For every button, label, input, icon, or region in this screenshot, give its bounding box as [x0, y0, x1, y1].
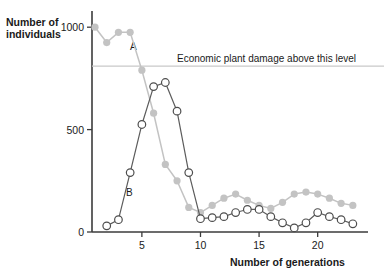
line-chart-svg: Number of individuals Number of generati… — [0, 0, 385, 276]
series-a-point — [138, 67, 145, 74]
economic-threshold-label: Economic plant damage above this level — [177, 53, 356, 64]
series-a-point — [349, 202, 356, 209]
y-tick-label: 500 — [66, 124, 84, 136]
series-a-point — [162, 161, 169, 168]
series-a-point — [326, 195, 333, 202]
series-a-point — [279, 199, 286, 206]
series-b-point — [290, 224, 298, 232]
series-b-point — [208, 214, 216, 222]
series-b-point — [314, 209, 322, 217]
series-a-point — [302, 188, 309, 195]
series-b-point — [115, 216, 123, 224]
series-b-point — [126, 169, 134, 177]
series-b-point — [349, 220, 357, 228]
y-tick-label: 0 — [78, 226, 84, 238]
chart-figure: Number of individuals Number of generati… — [0, 0, 385, 276]
series-b-point — [138, 121, 146, 129]
series-b-point — [326, 213, 334, 221]
curve-b-label: B — [126, 187, 133, 198]
series-b-point — [162, 79, 170, 87]
series-a-point — [91, 24, 98, 31]
series-a-point — [103, 39, 110, 46]
series-b-point — [244, 206, 252, 214]
series-a-point — [267, 205, 274, 212]
x-tick-label: 15 — [253, 239, 265, 251]
series-a-point — [127, 29, 134, 36]
y-axis-title-line1: Number of — [6, 16, 59, 28]
y-tick-label: 1000 — [61, 21, 85, 33]
series-a-point — [150, 110, 157, 117]
series-b-point — [302, 219, 310, 227]
series-b-point — [255, 206, 263, 214]
series-b-point — [185, 169, 193, 177]
series-a-point — [314, 191, 321, 198]
series-b-point — [220, 213, 228, 221]
x-axis-title: Number of generations — [230, 256, 345, 268]
series-a-point — [209, 202, 216, 209]
series-b-point — [267, 213, 275, 221]
series-a-point — [173, 177, 180, 184]
plot-area: 050010005101520 — [61, 11, 384, 251]
series-a-point — [244, 197, 251, 204]
series-b-point — [197, 215, 205, 223]
x-tick-label: 5 — [139, 239, 145, 251]
series-a-point — [338, 200, 345, 207]
x-tick-label: 10 — [195, 239, 207, 251]
y-axis-title-line2: individuals — [6, 28, 61, 40]
series-a-point — [291, 191, 298, 198]
series-a-point — [220, 195, 227, 202]
series-a-point — [232, 191, 239, 198]
series-b-point — [232, 209, 240, 217]
series-b-line — [107, 83, 353, 228]
series-b-point — [337, 216, 345, 224]
series-b-point — [173, 107, 181, 115]
series-b-point — [279, 219, 287, 227]
series-b-point — [150, 83, 158, 91]
x-tick-label: 20 — [312, 239, 324, 251]
series-a-point — [115, 29, 122, 36]
series-a-point — [185, 204, 192, 211]
series-b-point — [103, 222, 111, 230]
